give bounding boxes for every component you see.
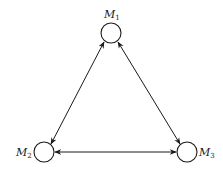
node-m2 (34, 142, 54, 162)
label-m1: M1 (103, 8, 120, 22)
diagram-canvas: M1 M2 M3 (0, 0, 223, 174)
node-m3 (177, 142, 197, 162)
edge-m1-m2 (51, 42, 104, 144)
label-m3: M3 (198, 146, 215, 160)
node-m1 (101, 23, 121, 43)
label-m2: M2 (15, 146, 32, 160)
edge-m1-m3 (118, 42, 180, 144)
